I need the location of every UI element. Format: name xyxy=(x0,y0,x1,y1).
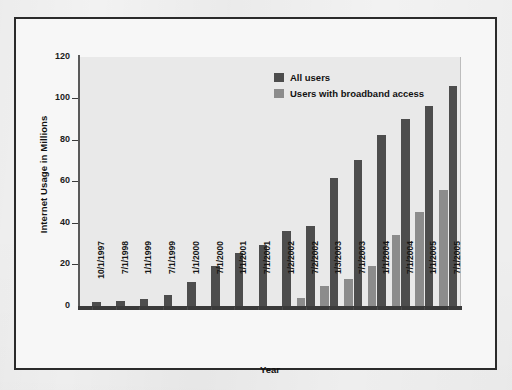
x-tick xyxy=(282,307,283,310)
bar-broadband xyxy=(439,190,448,306)
bar-chart: 120 100 80 60 40 20 0 Internet Usage in … xyxy=(16,19,495,368)
x-axis-label: 1/1/2000 xyxy=(191,241,201,311)
bar-broadband xyxy=(297,298,306,306)
x-tick xyxy=(329,307,330,310)
x-tick xyxy=(306,307,307,310)
x-tick xyxy=(448,307,449,310)
x-axis-label: 1/3/2003 xyxy=(333,241,343,311)
x-tick xyxy=(116,307,117,310)
x-tick xyxy=(163,307,164,310)
x-axis-title: Year xyxy=(80,364,460,375)
x-axis-label: 7/1/2000 xyxy=(215,241,225,311)
x-tick xyxy=(424,307,425,310)
x-axis-label: 7/2/2002 xyxy=(310,241,320,311)
chart-legend: All users Users with broadband access xyxy=(274,72,424,104)
x-axis-label: 7/1/1999 xyxy=(167,241,177,311)
x-axis-label: 7/1/2005 xyxy=(452,241,462,311)
chart-figure-frame: 120 100 80 60 40 20 0 Internet Usage in … xyxy=(14,17,497,370)
x-axis-label: 1/2/2002 xyxy=(286,241,296,311)
x-axis-label: 10/1/1997 xyxy=(96,241,106,311)
bar-broadband xyxy=(415,212,424,306)
bar-broadband xyxy=(392,235,401,306)
x-tick xyxy=(139,307,140,310)
x-axis-label: 7/1/2003 xyxy=(357,241,367,311)
x-axis-label: 7/1/2004 xyxy=(405,241,415,311)
x-tick xyxy=(401,307,402,310)
bar-broadband xyxy=(320,286,329,306)
y-tick-label-120: 120 xyxy=(36,52,70,61)
y-axis-title: Internet Usage in Millions xyxy=(38,80,49,270)
x-tick xyxy=(258,307,259,310)
x-tick xyxy=(377,307,378,310)
bar-broadband xyxy=(344,279,353,306)
legend-label-all-users: All users xyxy=(290,72,330,83)
y-tick-label-0: 0 xyxy=(36,301,70,310)
legend-swatch-broadband xyxy=(274,89,284,98)
x-tick xyxy=(353,307,354,310)
x-tick xyxy=(211,307,212,310)
x-axis-label: 1/1/2005 xyxy=(428,241,438,311)
x-tick xyxy=(187,307,188,310)
x-tick xyxy=(92,307,93,310)
x-axis-label: 1/1/1999 xyxy=(143,241,153,311)
legend-label-broadband: Users with broadband access xyxy=(290,88,424,99)
x-axis-label: 1/1/2004 xyxy=(381,241,391,311)
legend-swatch-all-users xyxy=(274,73,284,82)
legend-item-broadband: Users with broadband access xyxy=(274,88,424,99)
bar-broadband xyxy=(368,266,377,306)
x-tick xyxy=(234,307,235,310)
x-axis-label: 7/1/1998 xyxy=(120,241,130,311)
x-axis-label: 1/1/2001 xyxy=(238,241,248,311)
x-axis-label: 7/1/2001 xyxy=(262,241,272,311)
legend-item-all-users: All users xyxy=(274,72,424,83)
